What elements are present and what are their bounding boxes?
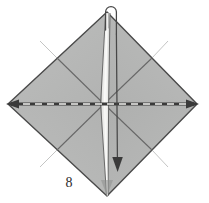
crease-lower-right-extension xyxy=(152,150,168,167)
origami-figure: 8 xyxy=(0,0,209,203)
crease-upper-right-extension xyxy=(152,41,168,58)
crease-lower-left-extension xyxy=(40,150,57,167)
step-number-label: 8 xyxy=(56,176,82,190)
origami-diagram-svg xyxy=(0,0,209,203)
crease-upper-left-extension xyxy=(40,41,57,58)
